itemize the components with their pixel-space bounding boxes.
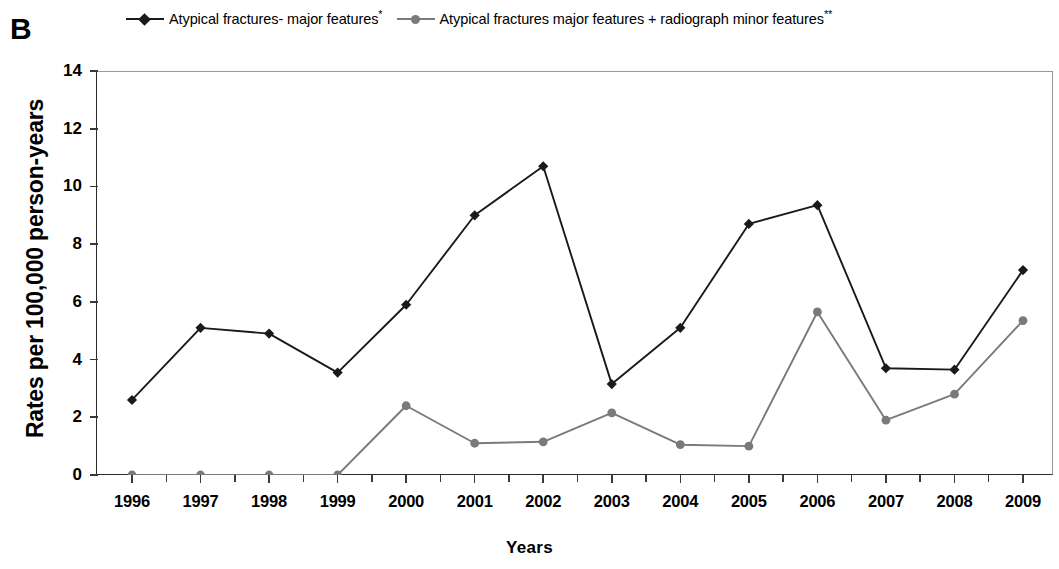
data-point-circle: [744, 442, 753, 451]
x-tick-mark: [474, 475, 476, 483]
data-point-diamond: [744, 219, 754, 229]
data-point-circle: [950, 390, 959, 399]
panel-label: B: [10, 14, 32, 44]
data-point-circle: [539, 437, 548, 446]
x-tick-mark: [817, 475, 819, 483]
series-line: [132, 166, 1023, 400]
y-tick-label: 2: [30, 408, 82, 425]
legend-footnote-1: *: [378, 8, 382, 20]
data-point-diamond: [264, 329, 274, 339]
x-tick-mark: [200, 475, 202, 483]
x-tick-mark-minor: [303, 475, 305, 482]
y-tick-label: 10: [30, 177, 82, 194]
x-tick-mark: [131, 475, 133, 483]
x-tick-mark-minor: [988, 475, 990, 482]
data-point-circle: [1019, 316, 1028, 325]
series-line: [132, 312, 1023, 475]
x-tick-mark: [748, 475, 750, 483]
y-tick-mark: [90, 70, 98, 72]
x-tick-mark-minor: [645, 475, 647, 482]
data-point-circle: [676, 440, 685, 449]
legend-entry-major-plus-radiograph: Atypical fractures major features + radi…: [397, 12, 833, 27]
data-point-circle: [882, 416, 891, 425]
x-tick-mark-minor: [234, 475, 236, 482]
x-tick-mark-minor: [371, 475, 373, 482]
data-point-diamond: [881, 363, 891, 373]
x-tick-mark-minor: [851, 475, 853, 482]
y-tick-label: 6: [30, 293, 82, 310]
y-tick-mark: [90, 128, 98, 130]
x-axis-title: Years: [0, 538, 1059, 558]
legend-entry-major-features: Atypical fractures- major features*: [126, 12, 383, 27]
x-tick-mark-minor: [440, 475, 442, 482]
legend-footnote-2: **: [824, 8, 832, 20]
x-tick-mark: [542, 475, 544, 483]
figure-panel-b: B Atypical fractures- major features* At…: [0, 0, 1059, 569]
y-tick-label: 0: [30, 466, 82, 483]
y-tick-mark: [90, 186, 98, 188]
x-tick-label: 2009: [983, 493, 1059, 510]
y-tick-mark: [90, 416, 98, 418]
x-tick-mark-minor: [508, 475, 510, 482]
y-tick-label: 12: [30, 120, 82, 137]
x-tick-mark-minor: [577, 475, 579, 482]
x-tick-mark: [405, 475, 407, 483]
x-tick-mark-minor: [166, 475, 168, 482]
y-tick-mark: [90, 359, 98, 361]
legend-label-text-2: Atypical fractures major features + radi…: [440, 11, 824, 27]
data-point-circle: [470, 439, 479, 448]
data-point-diamond: [812, 200, 822, 210]
x-tick-mark: [954, 475, 956, 483]
data-point-circle: [607, 409, 616, 418]
x-tick-mark-minor: [782, 475, 784, 482]
y-tick-mark: [90, 243, 98, 245]
series-1: [127, 161, 1028, 405]
x-tick-mark: [337, 475, 339, 483]
y-tick-label: 4: [30, 351, 82, 368]
y-tick-label: 14: [30, 62, 82, 79]
y-tick-label: 8: [30, 235, 82, 252]
legend-label-major-features: Atypical fractures- major features*: [169, 12, 383, 27]
legend-label-major-plus-radiograph: Atypical fractures major features + radi…: [440, 12, 833, 27]
diamond-marker-icon: [126, 12, 164, 26]
plot-series-layer: [96, 71, 1053, 475]
data-point-circle: [813, 308, 822, 317]
x-tick-mark-minor: [919, 475, 921, 482]
x-tick-mark: [1022, 475, 1024, 483]
circle-marker-icon: [397, 12, 435, 26]
x-tick-mark: [680, 475, 682, 483]
y-tick-mark: [90, 301, 98, 303]
x-tick-mark-minor: [714, 475, 716, 482]
chart-legend: Atypical fractures- major features* Atyp…: [126, 6, 832, 32]
data-point-circle: [402, 401, 411, 410]
x-tick-mark: [611, 475, 613, 483]
legend-label-text-1: Atypical fractures- major features: [169, 11, 378, 27]
y-tick-mark: [90, 474, 98, 476]
x-tick-mark: [268, 475, 270, 483]
x-tick-mark: [885, 475, 887, 483]
